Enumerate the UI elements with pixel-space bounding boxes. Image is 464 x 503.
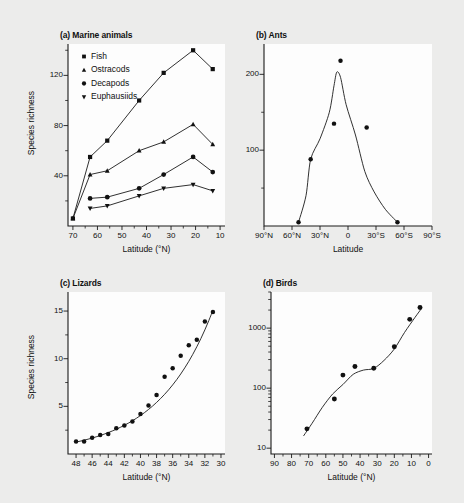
y-tick-label-d: 10	[239, 443, 266, 452]
data-point-marker	[352, 364, 357, 369]
data-point-marker	[392, 344, 397, 349]
panel-title-d: (d) Birds	[263, 278, 297, 288]
data-point-marker	[418, 305, 423, 310]
data-point-marker	[407, 317, 412, 322]
y-tick-label-d: 1000	[239, 323, 266, 332]
x-tick-label-d: 0	[418, 459, 440, 468]
data-point-marker	[332, 397, 337, 402]
data-point-marker	[340, 373, 345, 378]
data-point-marker	[305, 426, 310, 431]
data-point-marker	[371, 366, 376, 371]
panel-d-plot	[0, 0, 464, 503]
plot-area-d	[271, 292, 432, 454]
x-axis-label-d: Latitude (°N)	[271, 472, 432, 482]
figure-root: 706050403020104080120(a) Marine animalsL…	[0, 0, 464, 503]
y-tick-label-d: 100	[239, 383, 266, 392]
